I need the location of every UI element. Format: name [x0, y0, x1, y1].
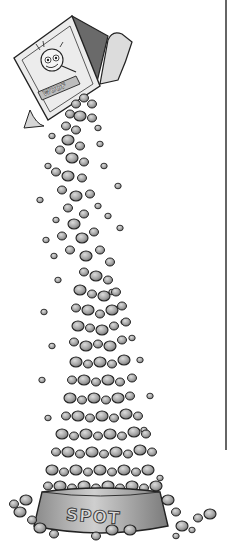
pet-food-illustration: WOOF — [0, 0, 232, 552]
kibble-pile — [44, 268, 163, 492]
dog-bowl: SPOT — [34, 488, 168, 533]
